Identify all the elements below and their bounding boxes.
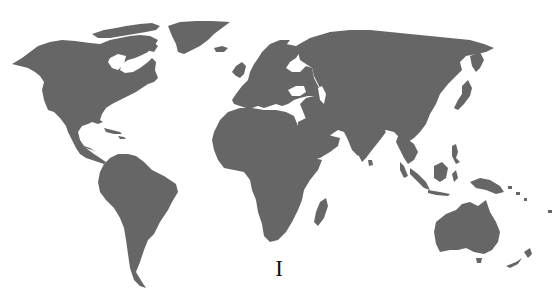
region-south-america bbox=[98, 154, 178, 288]
region-new-zealand bbox=[506, 248, 532, 268]
region-caribbean bbox=[104, 128, 126, 139]
region-malay bbox=[400, 162, 408, 178]
region-indochina bbox=[396, 136, 418, 164]
region-india bbox=[352, 124, 386, 162]
region-sumatra bbox=[410, 168, 430, 190]
region-pacific-islands bbox=[508, 186, 552, 213]
region-tasmania bbox=[476, 258, 482, 263]
region-british-isles bbox=[232, 62, 246, 78]
region-japan bbox=[454, 80, 472, 110]
region-philippines bbox=[452, 144, 460, 164]
region-iceland bbox=[214, 46, 228, 52]
region-canadian-arctic bbox=[92, 23, 160, 38]
region-madagascar bbox=[314, 198, 328, 226]
region-new-guinea bbox=[470, 178, 504, 194]
region-kamchatka bbox=[470, 52, 484, 72]
region-australia bbox=[434, 200, 500, 254]
region-sulawesi bbox=[452, 170, 458, 182]
region-borneo bbox=[434, 162, 448, 182]
region-sri-lanka bbox=[368, 160, 373, 166]
region-java bbox=[428, 190, 450, 196]
region-north-america bbox=[12, 35, 158, 152]
map-caption: I bbox=[271, 256, 287, 282]
